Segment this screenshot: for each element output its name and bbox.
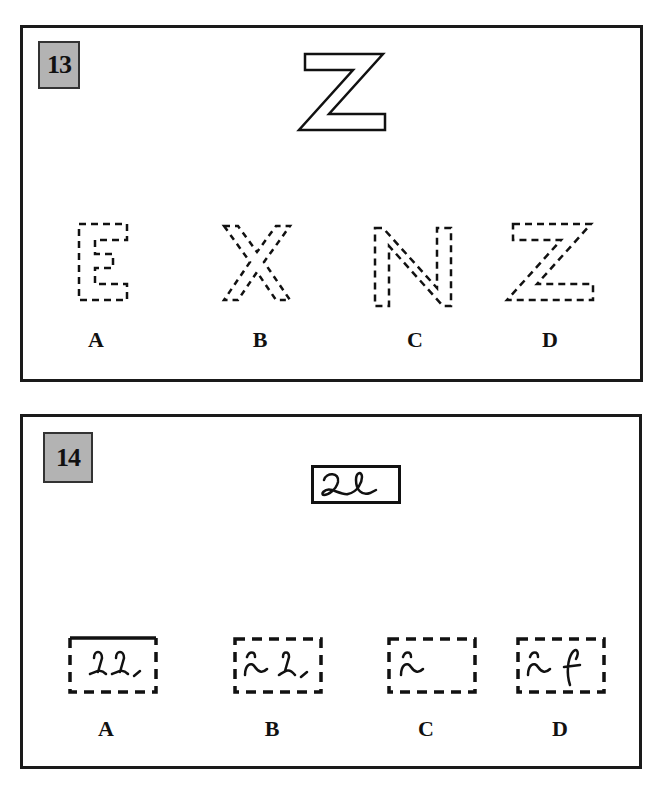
option-c-cursive-box[interactable] bbox=[387, 637, 477, 694]
target-outlined-z-icon bbox=[297, 52, 389, 132]
option-b-dashed-x-icon[interactable] bbox=[222, 224, 292, 302]
option-a-cursive-box[interactable] bbox=[68, 636, 158, 694]
option-a-dashed-e-icon[interactable] bbox=[77, 222, 129, 302]
option-d-dashed-z-icon[interactable] bbox=[505, 222, 597, 304]
option-c-label: C bbox=[406, 716, 446, 742]
option-b-label: B bbox=[252, 716, 292, 742]
option-d-cursive-box[interactable] bbox=[516, 637, 606, 694]
option-c-dashed-n-icon[interactable] bbox=[373, 226, 453, 308]
question-number-badge: 14 bbox=[43, 432, 93, 483]
option-b-cursive-box[interactable] bbox=[233, 637, 323, 694]
option-d-label: D bbox=[530, 327, 570, 353]
option-d-label: D bbox=[540, 716, 580, 742]
question-number-badge: 13 bbox=[38, 41, 80, 89]
target-cursive-box bbox=[311, 465, 401, 504]
option-a-label: A bbox=[86, 716, 126, 742]
option-b-label: B bbox=[240, 327, 280, 353]
option-a-label: A bbox=[76, 327, 116, 353]
option-c-label: C bbox=[395, 327, 435, 353]
cursive-glyph-icon bbox=[314, 468, 398, 501]
